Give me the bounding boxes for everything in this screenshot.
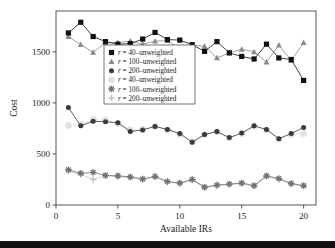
data-point — [78, 123, 83, 128]
data-point — [239, 54, 244, 59]
legend-label: r = 40–unweighted — [118, 76, 173, 84]
data-point — [140, 127, 145, 132]
data-point — [214, 129, 219, 134]
data-point — [214, 39, 219, 44]
legend-marker-circle-light — [108, 76, 115, 83]
data-point — [91, 119, 96, 124]
data-point — [78, 42, 84, 48]
legend-entry[interactable]: r = 200–unweighted — [109, 67, 177, 75]
data-point — [65, 166, 72, 173]
legend-marker-circle — [109, 68, 114, 73]
data-point — [103, 39, 108, 44]
data-point — [164, 178, 171, 185]
data-point — [115, 120, 120, 125]
data-point — [177, 38, 182, 43]
legend-label: r = 200–unweighted — [118, 95, 177, 103]
data-point — [252, 123, 257, 128]
data-point — [276, 55, 281, 60]
data-point — [152, 173, 159, 180]
legend-entry[interactable]: r = 100–unweighted — [109, 58, 177, 66]
data-point — [139, 176, 146, 183]
data-point — [78, 20, 83, 25]
legend-label: r = 40–unweighted — [118, 49, 173, 57]
data-point — [66, 30, 71, 35]
data-point — [227, 135, 232, 140]
data-point — [202, 132, 207, 137]
data-point — [251, 182, 258, 189]
data-point — [239, 131, 244, 136]
data-point — [177, 131, 182, 136]
series-line — [68, 107, 303, 142]
page-footer-rule — [0, 241, 335, 248]
data-point — [301, 78, 306, 83]
data-point — [90, 49, 96, 55]
legend-entry[interactable]: r = 40–unweighted — [108, 76, 173, 84]
data-point — [66, 105, 71, 110]
x-tick-label: 0 — [54, 211, 59, 221]
x-tick-label: 5 — [116, 211, 121, 221]
legend-label: r = 200–unweighted — [118, 67, 177, 75]
data-point — [276, 42, 282, 48]
data-point — [153, 124, 158, 129]
x-tick-label: 15 — [237, 211, 247, 221]
legend-label: r = 100–unweighted — [118, 86, 177, 94]
data-point — [264, 127, 269, 132]
chart-canvas: r = 40–unweightedr = 100–unweightedr = 2… — [0, 0, 335, 248]
data-point — [214, 182, 221, 189]
data-point — [301, 125, 306, 130]
data-point — [165, 37, 170, 42]
data-point — [177, 180, 184, 187]
data-point — [201, 184, 208, 191]
data-point — [103, 119, 108, 124]
x-axis-title: Available IRs — [160, 224, 212, 234]
data-point — [264, 42, 269, 47]
legend-entry[interactable]: r = 100–unweighted — [108, 86, 177, 94]
legend-marker-star — [108, 86, 115, 93]
data-point — [165, 127, 170, 132]
data-point — [226, 181, 233, 188]
data-point — [91, 34, 96, 39]
data-point — [140, 36, 145, 41]
x-tick-label: 20 — [299, 211, 309, 221]
legend-label: r = 100–unweighted — [118, 58, 177, 66]
series-group — [65, 168, 307, 191]
series-group — [65, 116, 307, 145]
y-tick-label: 0 — [46, 200, 51, 210]
data-point — [202, 49, 207, 54]
data-point — [301, 40, 307, 46]
data-point — [238, 180, 245, 187]
data-point — [127, 174, 134, 181]
legend-marker-square — [109, 50, 114, 55]
data-point — [276, 136, 281, 141]
series-group — [66, 105, 306, 145]
data-point — [263, 173, 270, 180]
y-tick-label: 1500 — [32, 47, 51, 57]
data-point — [90, 176, 96, 182]
data-point — [276, 175, 283, 182]
y-tick-label: 1000 — [32, 98, 51, 108]
data-point — [77, 170, 84, 177]
series-group — [65, 166, 307, 190]
data-point — [190, 140, 195, 145]
data-point — [227, 50, 232, 55]
data-point — [239, 46, 245, 52]
data-point — [289, 57, 294, 62]
data-point — [189, 176, 196, 183]
data-point — [102, 172, 109, 179]
y-tick-label: 500 — [37, 149, 51, 159]
figure-container: r = 40–unweightedr = 100–unweightedr = 2… — [0, 0, 335, 248]
data-point — [90, 169, 97, 176]
data-point — [251, 56, 256, 61]
data-point — [115, 173, 122, 180]
data-point — [152, 30, 157, 35]
data-point — [288, 180, 295, 187]
data-point — [128, 129, 133, 134]
data-point — [289, 131, 294, 136]
legend-entry[interactable]: r = 40–unweighted — [109, 49, 173, 57]
x-tick-label: 10 — [175, 211, 185, 221]
data-point — [300, 130, 307, 137]
data-point — [300, 182, 307, 189]
data-point — [65, 122, 72, 129]
legend-entry[interactable]: r = 200–unweighted — [108, 95, 176, 103]
y-axis-title: Cost — [9, 99, 19, 117]
